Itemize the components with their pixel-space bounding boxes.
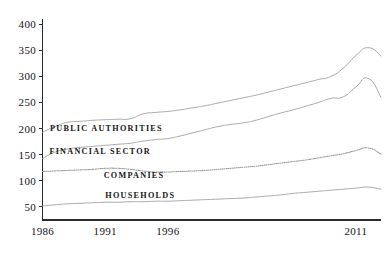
series-inline-labels: PUBLIC AUTHORITIESFINANCIAL SECTORCOMPAN… [49, 124, 175, 200]
y-tick-label: 400 [19, 18, 37, 30]
series-line-households [43, 187, 382, 206]
x-axis-tick-labels: 1986199119962011 [31, 225, 367, 237]
y-tick-label: 200 [19, 123, 37, 135]
series-label-public-authorities: PUBLIC AUTHORITIES [50, 124, 163, 133]
series-line-public-authorities [43, 48, 382, 133]
y-axis-tick-labels: 50100150200250300350400 [19, 18, 43, 213]
x-tick-label: 1986 [31, 225, 54, 237]
y-tick-label: 250 [19, 96, 37, 108]
chart-canvas: 50100150200250300350400 1986199119962011… [0, 0, 389, 256]
series-label-companies: COMPANIES [104, 171, 165, 180]
series-label-financial-sector: FINANCIAL SECTOR [49, 147, 151, 156]
y-tick-label: 300 [19, 70, 37, 82]
axis-lines [43, 19, 382, 220]
y-tick-label: 100 [19, 175, 37, 187]
x-tick-label: 2011 [345, 225, 368, 237]
y-tick-label: 150 [19, 149, 37, 161]
x-tick-label: 1996 [156, 225, 179, 237]
y-tick-label: 50 [24, 201, 36, 213]
chart-axes [43, 19, 382, 220]
line-chart-figure: 50100150200250300350400 1986199119962011… [0, 0, 389, 256]
y-tick-label: 350 [19, 44, 37, 56]
series-label-households: HOUSEHOLDS [105, 191, 175, 200]
x-tick-label: 1991 [94, 225, 117, 237]
